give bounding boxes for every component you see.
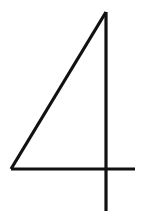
- digit-four-icon: [0, 0, 146, 219]
- glyph-canvas: 4: [0, 0, 146, 219]
- diagonal-stroke: [11, 12, 106, 169]
